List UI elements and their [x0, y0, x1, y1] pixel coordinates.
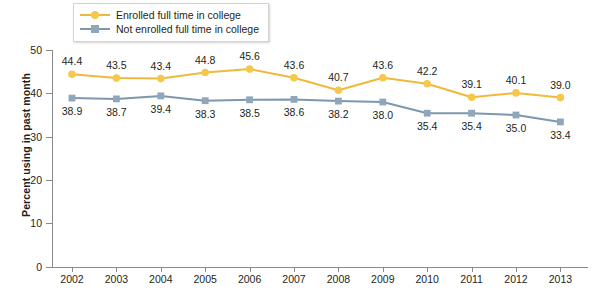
data-point-marker[interactable] — [202, 97, 209, 104]
legend-label-not-enrolled: Not enrolled full time in college — [116, 23, 259, 35]
data-point-value-label: 40.1 — [496, 75, 536, 86]
data-point-value-label: 33.4 — [540, 130, 580, 141]
data-point-value-label: 44.4 — [52, 56, 92, 67]
data-point-marker[interactable] — [113, 74, 121, 82]
legend: Enrolled full time in college Not enroll… — [73, 3, 269, 42]
data-point-marker[interactable] — [69, 95, 76, 102]
data-point-value-label: 38.7 — [96, 107, 136, 118]
data-point-marker[interactable] — [379, 99, 386, 106]
data-point-value-label: 45.6 — [230, 51, 270, 62]
data-point-marker[interactable] — [335, 98, 342, 105]
data-point-value-label: 38.3 — [185, 109, 225, 120]
legend-marker-square-icon — [80, 23, 110, 35]
legend-marker-circle-icon — [80, 9, 110, 21]
data-point-marker[interactable] — [423, 80, 431, 88]
data-point-value-label: 39.4 — [141, 104, 181, 115]
data-point-marker[interactable] — [557, 94, 565, 102]
data-point-marker[interactable] — [291, 96, 298, 103]
data-point-marker[interactable] — [379, 74, 387, 82]
data-point-value-label: 35.4 — [407, 121, 447, 132]
data-point-value-label: 40.7 — [318, 72, 358, 83]
line-chart: Percent using in past month 01020304050 … — [0, 0, 592, 290]
data-point-value-label: 43.6 — [363, 60, 403, 71]
data-point-value-label: 38.0 — [363, 110, 403, 121]
data-point-value-label: 44.8 — [185, 55, 225, 66]
data-point-value-label: 38.9 — [52, 106, 92, 117]
data-point-marker[interactable] — [424, 110, 431, 117]
data-point-value-label: 43.4 — [141, 61, 181, 72]
legend-item-enrolled[interactable]: Enrolled full time in college — [80, 8, 259, 22]
data-point-marker[interactable] — [157, 75, 165, 83]
data-point-marker[interactable] — [290, 74, 298, 82]
data-point-marker[interactable] — [468, 93, 476, 101]
legend-item-not-enrolled[interactable]: Not enrolled full time in college — [80, 22, 259, 36]
data-point-marker[interactable] — [246, 96, 253, 103]
data-point-value-label: 38.5 — [230, 108, 270, 119]
data-point-value-label: 35.0 — [496, 123, 536, 134]
data-point-value-label: 38.2 — [318, 109, 358, 120]
data-point-marker[interactable] — [512, 89, 520, 97]
data-point-marker[interactable] — [246, 65, 254, 73]
data-point-marker[interactable] — [513, 112, 520, 119]
legend-label-enrolled: Enrolled full time in college — [116, 9, 241, 21]
data-point-marker[interactable] — [113, 96, 120, 103]
data-point-marker[interactable] — [201, 69, 209, 77]
data-point-marker[interactable] — [157, 93, 164, 100]
data-point-value-label: 38.6 — [274, 107, 314, 118]
data-point-value-label: 43.5 — [96, 60, 136, 71]
data-point-marker[interactable] — [557, 119, 564, 126]
data-point-value-label: 35.4 — [452, 121, 492, 132]
data-point-value-label: 42.2 — [407, 66, 447, 77]
data-point-value-label: 39.0 — [540, 80, 580, 91]
data-point-marker[interactable] — [335, 87, 343, 95]
data-point-marker[interactable] — [68, 70, 76, 78]
data-point-value-label: 43.6 — [274, 60, 314, 71]
plot-area — [0, 0, 592, 290]
data-point-marker[interactable] — [468, 110, 475, 117]
data-point-value-label: 39.1 — [452, 79, 492, 90]
